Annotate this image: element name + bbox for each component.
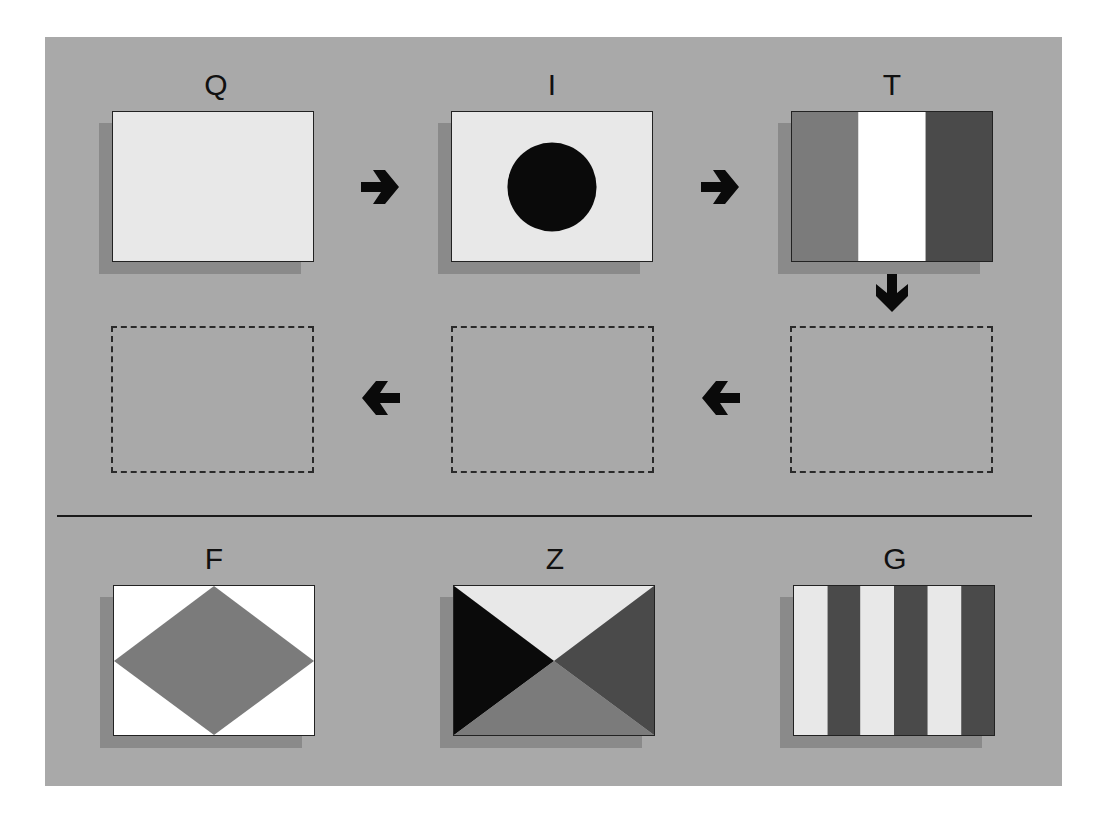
option-label-g: G — [865, 544, 925, 574]
empty-slot-3[interactable] — [790, 326, 993, 473]
empty-slot-1[interactable] — [111, 326, 314, 473]
diamond-icon — [114, 586, 314, 735]
arrow-left-icon — [700, 378, 742, 418]
empty-slot-2[interactable] — [451, 326, 654, 473]
option-flag-f[interactable] — [113, 585, 315, 736]
flag-q — [112, 111, 314, 262]
arrow-down-icon — [871, 273, 913, 313]
arrow-right-icon — [699, 167, 741, 207]
option-flag-g[interactable] — [793, 585, 995, 736]
option-flag-z[interactable] — [453, 585, 655, 736]
flag-t — [791, 111, 993, 262]
vertical-stripes-icon — [794, 586, 994, 735]
flag-label-t: T — [862, 70, 922, 100]
flag-i — [451, 111, 653, 262]
black-circle-icon — [452, 112, 652, 261]
option-label-z: Z — [525, 544, 585, 574]
four-triangles-icon — [454, 586, 654, 735]
arrow-left-icon — [360, 378, 402, 418]
arrow-right-icon — [359, 167, 401, 207]
tricolor-stripes-icon — [792, 112, 992, 261]
option-label-f: F — [184, 544, 244, 574]
flag-label-i: I — [522, 70, 582, 100]
divider-line — [57, 515, 1032, 517]
flag-label-q: Q — [186, 70, 246, 100]
